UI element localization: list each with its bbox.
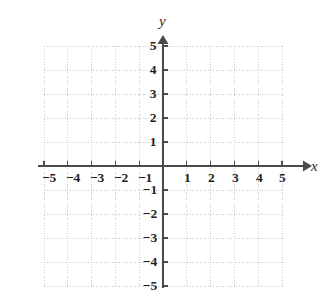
y-tick-label-6: −2 xyxy=(143,207,157,221)
x-tick-label-8: 4 xyxy=(256,171,262,185)
y-tick-label-3: 2 xyxy=(150,111,157,125)
y-tick-label-5: −1 xyxy=(143,183,157,197)
x-tick-label-3: −2 xyxy=(114,171,127,185)
x-tick-label-7: 3 xyxy=(232,171,238,185)
y-axis xyxy=(158,35,169,288)
y-tick-label-9: −5 xyxy=(143,279,157,293)
coordinate-plane-figure: x y −5−4−3−2−112345 54321−1−2−3−4−5 xyxy=(0,0,331,300)
x-tick-label-9: 5 xyxy=(279,171,285,185)
x-tick-label-2: −3 xyxy=(90,171,103,185)
y-tick-label-7: −3 xyxy=(143,231,157,245)
x-axis-label: x xyxy=(311,159,318,174)
y-tick-label-1: 4 xyxy=(150,63,157,77)
x-tick-label-0: −5 xyxy=(42,171,55,185)
x-tick-label-6: 2 xyxy=(208,171,214,185)
y-tick-label-4: 1 xyxy=(150,135,157,149)
x-tick-label-1: −4 xyxy=(66,171,79,185)
y-tick-label-8: −4 xyxy=(143,255,157,269)
y-axis-label: y xyxy=(159,14,166,29)
y-tick-label-2: 3 xyxy=(150,87,157,101)
y-tick-label-0: 5 xyxy=(150,39,157,53)
x-tick-label-5: 1 xyxy=(184,171,190,185)
coordinate-grid-svg xyxy=(0,0,331,300)
y-axis-arrowhead xyxy=(158,35,169,44)
